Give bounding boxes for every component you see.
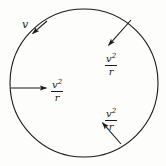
fraction-denominator: r	[105, 67, 117, 77]
acceleration-arrow-upper-right	[109, 20, 132, 45]
numerator-exponent: 2	[112, 107, 116, 115]
fraction-numerator: v2	[105, 53, 117, 65]
fraction-numerator: v2	[105, 108, 117, 120]
fraction-v2-over-r: v2 r	[105, 53, 117, 77]
numerator-exponent: 2	[58, 78, 62, 86]
fraction-denominator: r	[105, 122, 117, 132]
fraction-v2-over-r: v2 r	[51, 79, 63, 103]
circle-path	[10, 9, 158, 157]
acceleration-label-lower-right: v2 r	[105, 108, 117, 133]
circular-motion-figure: v v2 r v2 r v2 r	[0, 0, 166, 166]
fraction-numerator: v2	[51, 79, 63, 91]
acceleration-label-upper-right: v2 r	[105, 53, 117, 78]
acceleration-label-left: v2 r	[51, 79, 63, 104]
fraction-v2-over-r: v2 r	[105, 108, 117, 132]
numerator-exponent: 2	[112, 52, 116, 60]
fraction-denominator: r	[51, 93, 63, 103]
velocity-label: v	[22, 19, 28, 30]
